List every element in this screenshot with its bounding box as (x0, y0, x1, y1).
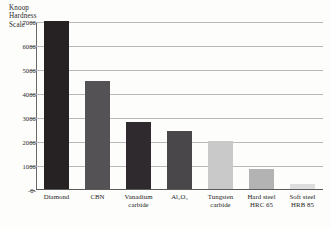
gridline-7000 (36, 22, 323, 23)
x-axis-label-vanadium-carbide: Vanadiumcarbide (118, 193, 159, 209)
bar-vanadium-carbide (126, 122, 152, 189)
x-axis-label-cbn: CBN (77, 193, 118, 201)
y-tick-mark-1000 (30, 166, 35, 167)
x-label-line-1: Hard steel (247, 193, 275, 200)
y-tick-mark-5000 (30, 70, 35, 71)
x-axis-label-al2o3: Al₂O₃ (159, 193, 200, 201)
x-label-line-2: HRB 85 (282, 201, 323, 209)
bar-diamond (44, 21, 70, 189)
y-tick-mark-4000 (30, 94, 35, 95)
x-label-line-2: carbide (118, 201, 159, 209)
x-label-line-1: Vanadium (125, 193, 153, 200)
y-tick-mark-6000 (30, 46, 35, 47)
bar-hard-steel-hrc-65 (249, 169, 275, 189)
chart-screenshot: Knoop Hardness Scale 7000600050004000300… (0, 0, 331, 229)
plot-area (36, 22, 323, 190)
x-label-line-1: Diamond (44, 193, 70, 200)
bar-soft-steel-hrb-85 (290, 184, 316, 189)
y-tick-mark-2000 (30, 142, 35, 143)
gridline-5000 (36, 70, 323, 71)
bar-al2o3 (167, 131, 193, 189)
x-axis-label-hard-steel-hrc-65: Hard steelHRC 65 (241, 193, 282, 209)
bar-tungsten-carbide (208, 141, 234, 189)
gridline-4000 (36, 94, 323, 95)
chart-title-line-1: Knoop (9, 4, 69, 12)
x-label-line-1: CBN (90, 193, 104, 200)
y-tick-mark-3000 (30, 118, 35, 119)
x-label-line-2: HRC 65 (241, 201, 282, 209)
x-axis-labels: DiamondCBNVanadiumcarbideAl₂O₃Tungstenca… (36, 193, 323, 227)
x-axis-label-diamond: Diamond (36, 193, 77, 201)
x-label-line-1: Al₂O₃ (171, 193, 188, 200)
bar-cbn (85, 81, 111, 189)
y-tick-mark-7000 (30, 22, 35, 23)
gridline-3000 (36, 118, 323, 119)
x-axis-label-tungsten-carbide: Tungstencarbide (200, 193, 241, 209)
x-label-line-2: carbide (200, 201, 241, 209)
x-label-line-1: Tungsten (208, 193, 233, 200)
x-label-line-1: Soft steel (290, 193, 316, 200)
gridline-6000 (36, 46, 323, 47)
x-axis-label-soft-steel-hrb-85: Soft steelHRB 85 (282, 193, 323, 209)
y-tick-mark-0 (30, 190, 35, 191)
y-axis-line (36, 22, 37, 190)
x-axis-line (36, 189, 323, 190)
